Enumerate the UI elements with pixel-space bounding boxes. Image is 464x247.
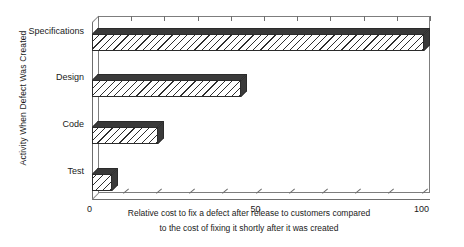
category-axis-labels: Specifications Design Code Test — [6, 0, 84, 200]
category-label-code: Code — [8, 119, 84, 129]
category-label-design: Design — [8, 72, 84, 82]
x-tick-top-90 — [397, 16, 398, 21]
x-tick-top-20 — [164, 16, 165, 21]
bar-side-face — [112, 168, 118, 191]
bar-side-face — [158, 121, 164, 144]
bar-front-face — [92, 127, 158, 144]
bar-code — [92, 121, 164, 144]
bar-test — [92, 168, 118, 191]
bar-front-face — [92, 174, 112, 191]
bar-specifications — [92, 28, 430, 51]
x-tick-top-100 — [430, 16, 431, 21]
x-tick-top-10 — [131, 16, 132, 21]
category-label-specifications: Specifications — [8, 26, 84, 36]
x-axis-title: Relative cost to fix a defect after rele… — [0, 206, 464, 236]
x-axis-line — [92, 199, 430, 200]
x-tick-top-60 — [297, 16, 298, 21]
x-tick-top-40 — [231, 16, 232, 21]
bar-front-face — [92, 34, 424, 51]
x-tick-top-30 — [198, 16, 199, 21]
bar-design — [92, 74, 247, 97]
x-axis-title-line-2: to the cost of fixing it shortly after i… — [0, 221, 464, 236]
x-tick-top-50 — [264, 16, 265, 21]
x-tick-top-80 — [364, 16, 365, 21]
bar-front-face — [92, 80, 241, 97]
category-label-test: Test — [8, 166, 84, 176]
bar-chart-figure: Activity When Defect Was Created Specifi… — [0, 0, 464, 247]
bar-side-face — [241, 74, 247, 97]
x-axis-title-line-1: Relative cost to fix a defect after rele… — [0, 206, 464, 221]
x-tick-top-70 — [330, 16, 331, 21]
bar-side-face — [424, 28, 430, 51]
x-tick-top-0 — [98, 16, 99, 21]
plot-area: 050100 — [92, 16, 430, 199]
